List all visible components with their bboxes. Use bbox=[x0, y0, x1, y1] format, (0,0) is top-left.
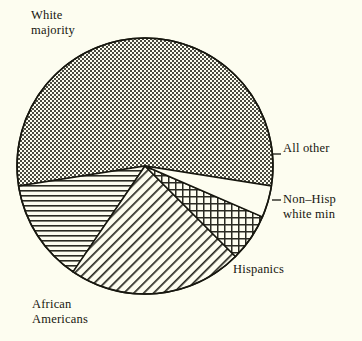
pie-label-non-hisp-white-min: Non–Hisp white min bbox=[283, 192, 336, 221]
pie-label-hispanics: Hispanics bbox=[233, 262, 284, 277]
pie-label-line: African bbox=[32, 297, 72, 311]
pie-chart-figure: White majority All other Non–Hisp white … bbox=[0, 0, 362, 341]
pie-slice-group bbox=[17, 38, 273, 294]
pie-label-line: White bbox=[31, 8, 63, 22]
pie-label-line: Hispanics bbox=[233, 262, 284, 276]
pie-chart-canvas bbox=[0, 0, 362, 341]
pie-label-line: Non–Hisp bbox=[283, 192, 336, 206]
pie-label-line: majority bbox=[31, 23, 75, 37]
pie-label-line: Americans bbox=[32, 312, 88, 326]
pie-label-line: All other bbox=[283, 141, 330, 155]
pie-label-line: white min bbox=[283, 207, 335, 221]
pie-label-african-americans: African Americans bbox=[32, 297, 88, 326]
pie-label-all-other: All other bbox=[283, 141, 330, 156]
pie-slice bbox=[17, 38, 273, 186]
pie-label-white-majority: White majority bbox=[31, 8, 75, 37]
